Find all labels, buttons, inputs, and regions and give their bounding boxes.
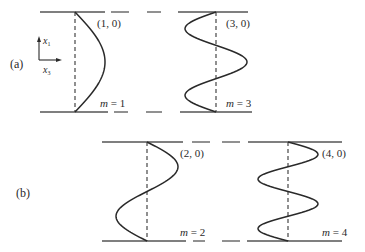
axis-x3-label: x3 (42, 64, 50, 76)
panel-b-label: (b) (16, 186, 30, 200)
coord-label-m4: (4, 0) (322, 147, 346, 160)
m-label-3: m = 3 (226, 97, 252, 109)
coord-label-m2: (2, 0) (180, 147, 204, 160)
m-label-1: m = 1 (100, 97, 125, 109)
m-label-2: m = 2 (180, 226, 205, 238)
coord-label-m3: (3, 0) (226, 17, 250, 30)
m-label-4: m = 4 (322, 226, 348, 238)
axis-x1-label: x1 (42, 35, 50, 47)
axis-indicator (37, 36, 62, 62)
panel-a-label: (a) (10, 57, 23, 71)
mode-shapes-diagram: x1 x3 (a) (b) (1, 0) (3, 0) (2, 0) (4, 0… (0, 0, 365, 252)
coord-label-m1: (1, 0) (97, 17, 121, 30)
